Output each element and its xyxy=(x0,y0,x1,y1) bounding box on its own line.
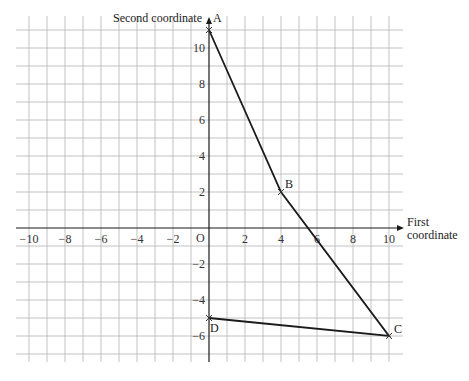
y-tick-label: 8 xyxy=(199,77,205,91)
point-label-b: B xyxy=(285,177,293,191)
x-tick-label: 4 xyxy=(278,232,284,246)
y-tick-label: 4 xyxy=(199,149,205,163)
origin-label: O xyxy=(196,231,205,245)
x-tick-label: 10 xyxy=(383,232,395,246)
x-tick-label: −2 xyxy=(167,232,180,246)
point-label-a: A xyxy=(213,11,222,25)
y-axis-title: Second coordinate xyxy=(113,11,202,25)
y-tick-label: 2 xyxy=(199,185,205,199)
point-label-c: C xyxy=(394,322,402,336)
y-tick-label: 10 xyxy=(193,41,205,55)
y-tick-label: −6 xyxy=(192,329,205,343)
y-tick-label: 6 xyxy=(199,113,205,127)
x-axis-title-line1: First xyxy=(407,215,430,229)
x-tick-label: −4 xyxy=(131,232,144,246)
x-axis-arrow-icon xyxy=(397,225,404,231)
x-tick-label: 8 xyxy=(350,232,356,246)
axes xyxy=(16,17,404,362)
x-tick-label: 2 xyxy=(242,232,248,246)
y-axis-arrow-icon xyxy=(206,17,212,24)
point-label-d: D xyxy=(210,321,219,335)
coordinate-plane-chart: −10−8−6−4−2246810108642−2−4−6 Second coo… xyxy=(0,0,469,381)
x-tick-label: −6 xyxy=(95,232,108,246)
x-tick-label: −10 xyxy=(20,232,39,246)
y-tick-label: −4 xyxy=(192,293,205,307)
x-tick-label: −8 xyxy=(59,232,72,246)
y-tick-label: −2 xyxy=(192,257,205,271)
data-points: ABCD xyxy=(206,11,402,339)
x-axis-title-line2: coordinate xyxy=(407,228,458,242)
